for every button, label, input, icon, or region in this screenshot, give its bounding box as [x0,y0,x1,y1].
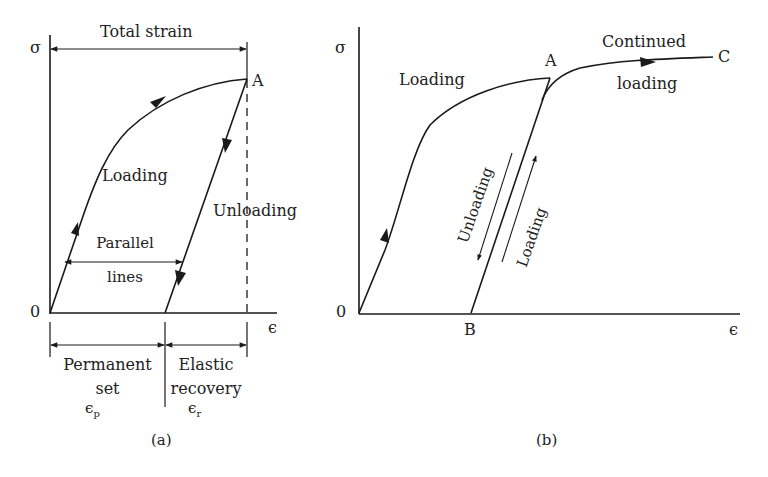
a-caption: (a) [151,433,172,448]
a-origin-label: 0 [30,304,40,320]
b-epsilon-label: ϵ [729,322,738,338]
panel-a [50,35,277,407]
a-unloading-label: Unloading [213,203,297,219]
a-unloading-arrow-upper [222,138,232,153]
a-unloading-arrow-lower [175,270,186,286]
a-loading-label: Loading [102,168,168,184]
b-origin-label: 0 [336,304,346,320]
a-epsilon-p-sub: p [93,408,99,419]
a-loading-arrow-lower [71,222,79,236]
b-continued-loading-label: loading [617,76,677,92]
b-sigma-label: σ [335,40,346,56]
a-permanent-label: Permanent [50,357,165,373]
a-parallel-label: Parallel [80,236,170,251]
b-continued-arrow [640,57,656,67]
a-set-label: set [50,381,165,397]
b-continued-label: Continued [602,34,686,50]
a-epsilon-r-sub: r [196,408,201,419]
a-epsilon-label: ϵ [268,320,277,336]
a-epsilon-p-label: ϵp [85,401,100,419]
b-point-c-label: C [718,49,730,65]
a-parallel-line1: Parallel [96,234,154,252]
b-point-b-label: B [464,322,476,338]
a-lines-label: lines [80,270,170,285]
b-loading-curve [359,78,550,313]
a-loading-arrow-upper [150,96,166,108]
b-caption: (b) [536,433,557,448]
a-sigma-label: σ [30,40,41,56]
b-loading-arrow [380,228,389,243]
b-point-a-label: A [545,53,557,69]
b-loading-label: Loading [399,72,465,88]
a-elastic-label: Elastic [165,357,247,373]
a-parallel-line2: lines [107,268,143,286]
a-epsilon-r-label: ϵr [188,401,201,419]
a-point-a-label: A [252,73,264,89]
a-total-strain-label: Total strain [100,24,192,40]
a-recovery-label: recovery [165,381,247,397]
